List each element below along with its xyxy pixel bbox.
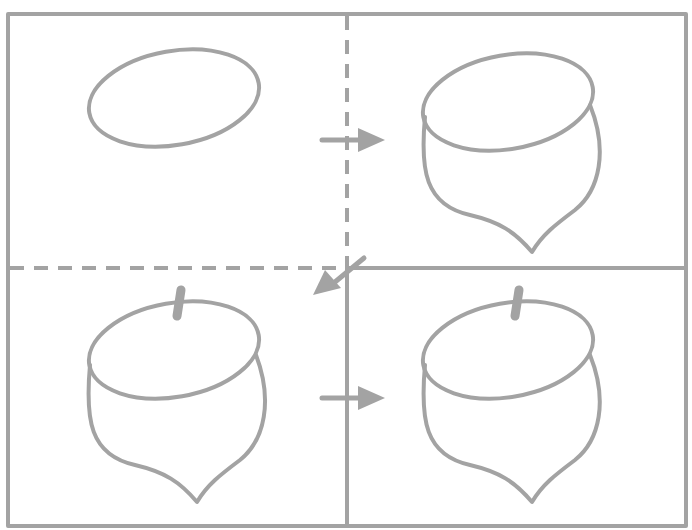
arrow-step1-to-step2 [322, 128, 385, 152]
step2-acorn [415, 41, 601, 252]
arrow-step3-to-step4 [322, 386, 385, 410]
arrow-step2-to-step3 [313, 258, 364, 295]
step1-ellipse [81, 37, 267, 159]
acorn-steps-diagram [0, 0, 692, 530]
step3-acorn [81, 289, 267, 502]
step4-acorn [415, 289, 601, 502]
